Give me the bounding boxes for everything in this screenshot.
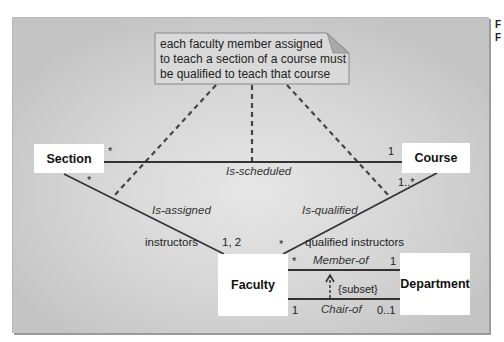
class-department[interactable]: Department bbox=[400, 253, 470, 315]
note-line: to teach a section of a course must bbox=[160, 52, 346, 67]
is-qualified-label: Is-qualified bbox=[302, 204, 358, 216]
is-scheduled-label: Is-scheduled bbox=[226, 165, 291, 177]
faculty-assigned-mult: 1, 2 bbox=[222, 236, 241, 248]
note-anchors bbox=[113, 85, 390, 197]
department-member-mult: 1 bbox=[390, 255, 396, 267]
faculty-member-mult: * bbox=[292, 255, 296, 267]
course-qualified-mult: 1..* bbox=[398, 176, 415, 188]
department-chair-mult: 0..1 bbox=[377, 304, 395, 316]
constraint-note: each faculty member assigned to teach a … bbox=[160, 37, 346, 82]
note-line: each faculty member assigned bbox=[160, 37, 346, 52]
is-assigned-label: Is-assigned bbox=[152, 204, 211, 216]
instructors-role: instructors bbox=[145, 236, 198, 248]
subset-constraint: {subset} bbox=[338, 283, 378, 295]
section-assigned-mult: * bbox=[87, 174, 91, 186]
note-line: be qualified to teach that course bbox=[160, 67, 346, 82]
qualified-instructors-role: qualified instructors bbox=[305, 236, 404, 248]
course-schedule-mult: 1 bbox=[388, 145, 394, 157]
chair-of-label: Chair-of bbox=[321, 303, 362, 315]
class-faculty[interactable]: Faculty bbox=[218, 254, 288, 316]
faculty-qualified-mult: * bbox=[279, 238, 283, 250]
faculty-chair-mult: 1 bbox=[292, 304, 298, 316]
member-of-label: Member-of bbox=[313, 254, 368, 266]
class-course[interactable]: Course bbox=[402, 143, 470, 173]
section-schedule-mult: * bbox=[108, 145, 112, 157]
class-section[interactable]: Section bbox=[34, 144, 104, 173]
